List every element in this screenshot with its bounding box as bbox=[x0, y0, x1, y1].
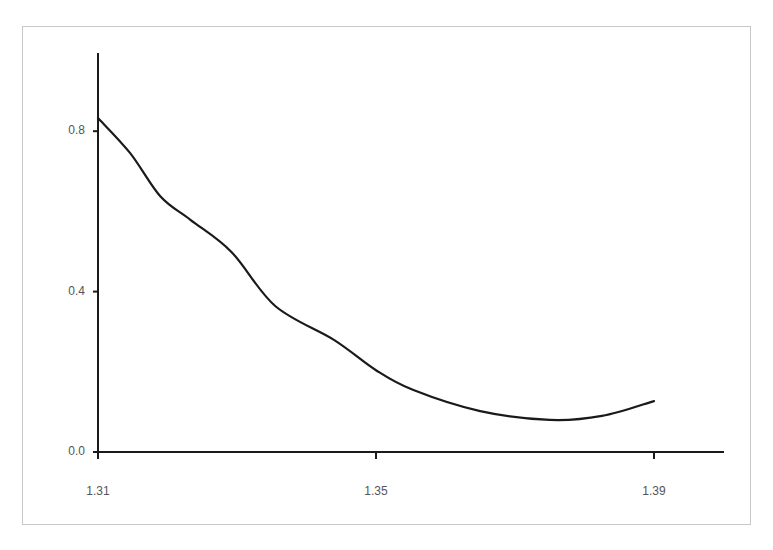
x-tick-label: 1.31 bbox=[68, 484, 128, 498]
y-tick-label: 0.0 bbox=[45, 444, 85, 458]
x-tick-label: 1.39 bbox=[624, 484, 684, 498]
y-tick-label: 0.8 bbox=[45, 123, 85, 137]
x-ticks bbox=[98, 452, 654, 459]
data-line bbox=[98, 118, 654, 420]
chart-plot-area bbox=[0, 0, 773, 550]
y-tick-label: 0.4 bbox=[45, 284, 85, 298]
x-tick-label: 1.35 bbox=[346, 484, 406, 498]
